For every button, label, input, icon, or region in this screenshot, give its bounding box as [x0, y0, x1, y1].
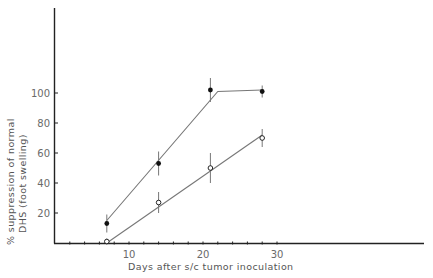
- filled-circle-marker: [104, 221, 109, 226]
- x-tick-label: 20: [197, 249, 210, 260]
- series-filled: [104, 78, 264, 233]
- y-tick-label: 40: [37, 178, 50, 189]
- open-circle-marker: [260, 136, 265, 141]
- x-axis-ticks: 102030: [70, 242, 284, 261]
- open-circle-marker: [208, 166, 213, 171]
- y-axis-label-line1: % suppression of normal: [5, 118, 16, 245]
- filled-circle-marker: [260, 89, 265, 94]
- filled-circle-marker: [208, 88, 213, 93]
- data-series: [104, 78, 264, 245]
- y-tick-label: 100: [31, 88, 50, 99]
- open-circle-marker: [105, 239, 110, 244]
- open-circle-marker: [156, 200, 161, 205]
- y-axis-label: % suppression of normal DHS (foot swelli…: [5, 118, 28, 245]
- x-tick-label: 30: [271, 249, 284, 260]
- chart: 102030 20406080100 Days after s/c tumor …: [0, 0, 433, 278]
- y-tick-label: 20: [37, 208, 50, 219]
- x-tick-label: 10: [123, 249, 136, 260]
- series-open: [105, 129, 265, 245]
- fit-line: [107, 135, 262, 243]
- y-tick-label: 60: [37, 148, 50, 159]
- fit-line: [107, 90, 262, 221]
- y-tick-label: 80: [37, 118, 50, 129]
- y-axis-label-line2: DHS (foot swelling): [17, 134, 28, 233]
- x-axis-label: Days after s/c tumor inoculation: [128, 261, 294, 272]
- filled-circle-marker: [156, 161, 161, 166]
- axes: [54, 8, 424, 244]
